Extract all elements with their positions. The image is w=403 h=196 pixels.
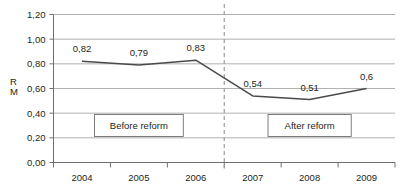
chart-canvas: 0,000,200,400,600,801,001,20 20042005200… [0,0,403,196]
data-point-label-2008: 0,51 [300,82,319,93]
data-point-label-2004: 0,82 [73,43,92,54]
line-chart: 0,000,200,400,600,801,001,20 20042005200… [0,0,403,196]
x-tick-label-2004: 2004 [71,172,92,183]
data-point-label-2006: 0,83 [187,42,206,53]
x-tick-label-2009: 2009 [356,172,377,183]
x-tick-label-2007: 2007 [242,172,263,183]
y-axis-title: RM [10,76,18,97]
annotation-before-reform: Before reform [94,115,183,137]
y-tick-label: 0,40 [27,108,46,119]
y-tick-label: 0,60 [27,83,46,94]
annotation-label: After reform [285,120,335,131]
y-tick-label: 0,00 [27,157,46,168]
annotation-after-reform: After reform [268,115,351,137]
data-point-label-2007: 0,54 [243,78,262,89]
x-tick-label-2006: 2006 [185,172,206,183]
data-point-label-2005: 0,79 [130,47,149,58]
annotation-label: Before reform [110,120,168,131]
y-axis-title-line: M [10,86,18,97]
chart-background [0,0,403,196]
y-tick-label: 0,20 [27,132,46,143]
data-point-label-2009: 0,6 [360,71,373,82]
y-tick-label: 1,20 [27,9,46,20]
x-tick-label-2005: 2005 [128,172,149,183]
y-tick-label: 0,80 [27,58,46,69]
y-tick-label: 1,00 [27,34,46,45]
x-tick-label-2008: 2008 [299,172,320,183]
